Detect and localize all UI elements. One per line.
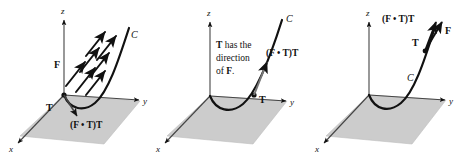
- ground-plane: [167, 96, 287, 144]
- ground-plane: [326, 95, 446, 144]
- force-vector-label: F: [445, 25, 451, 36]
- curve-c-label: C: [131, 29, 138, 40]
- projection-label: (F • T)T: [266, 48, 299, 59]
- x-axis-label: x: [8, 144, 13, 154]
- projection-label: (F • T)T: [382, 14, 415, 25]
- force-vector-label: F: [54, 59, 60, 70]
- z-axis-label: z: [60, 6, 65, 16]
- y-axis-label: y: [289, 97, 294, 107]
- panel-3-diagram: z y x C (F • T)T F T: [306, 0, 460, 157]
- projection-vector: [254, 62, 267, 95]
- figure-container: z y x C F T: [0, 0, 460, 157]
- tangent-vector-label: T: [412, 37, 419, 48]
- caption-line-2: direction: [216, 53, 250, 63]
- x-axis-label: x: [314, 144, 319, 154]
- y-axis-label: y: [142, 96, 147, 106]
- panel-1: z y x C F T: [0, 0, 153, 157]
- caption-line-3: of F.: [216, 66, 234, 76]
- tangent-vector-label: T: [259, 94, 266, 105]
- panel-2: z y x C T has the direction of F. T (F •…: [153, 0, 306, 157]
- tangent-vector-label: T: [46, 102, 53, 113]
- x-axis-label: x: [155, 144, 160, 154]
- caption-line-1: T has the: [216, 40, 251, 50]
- projection-label: (F • T)T: [70, 120, 103, 131]
- y-axis-label: y: [448, 96, 453, 106]
- z-axis-label: z: [365, 8, 370, 18]
- curve-c-label: C: [407, 72, 414, 83]
- panel-2-diagram: z y x C T has the direction of F. T (F •…: [153, 0, 306, 157]
- z-axis-label: z: [206, 8, 211, 18]
- panel-1-diagram: z y x C F T: [0, 0, 153, 157]
- curve-c-label: C: [286, 13, 293, 24]
- panel-3: z y x C (F • T)T F T: [306, 0, 460, 157]
